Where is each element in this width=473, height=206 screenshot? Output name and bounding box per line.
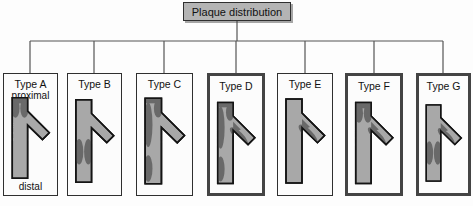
type-box-c: Type C bbox=[136, 73, 193, 196]
figure-title: Plaque distribution bbox=[192, 6, 283, 18]
distal-label: distal bbox=[4, 181, 57, 192]
type-box-b: Type B bbox=[67, 73, 122, 196]
type-box-e: Type E bbox=[277, 73, 333, 196]
type-box-f: Type F bbox=[345, 73, 403, 196]
bifurcation-vessel-diagram bbox=[137, 89, 192, 193]
type-box-a: Type A proximal distal bbox=[3, 73, 58, 196]
figure-title-box: Plaque distribution bbox=[183, 2, 291, 21]
bifurcation-vessel-diagram bbox=[210, 91, 262, 195]
plaque-distribution-figure: Plaque distribution Type A proximal dist… bbox=[0, 0, 473, 206]
bifurcation-vessel-diagram bbox=[4, 90, 57, 186]
type-label: Type A bbox=[4, 79, 57, 90]
type-box-g: Type G bbox=[416, 73, 471, 196]
bifurcation-vessel-diagram bbox=[278, 89, 332, 193]
bifurcation-vessel-diagram bbox=[348, 91, 400, 195]
bifurcation-vessel-diagram bbox=[68, 89, 121, 193]
bifurcation-vessel-diagram bbox=[419, 91, 468, 195]
type-box-d: Type D bbox=[207, 73, 265, 196]
